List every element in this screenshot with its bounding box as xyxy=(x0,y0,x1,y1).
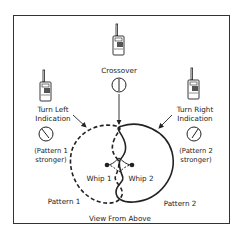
turn-right-arrow xyxy=(159,115,172,128)
walkie-talkie-icon xyxy=(113,24,124,55)
walkie-talkie-icon xyxy=(188,68,199,99)
right-note-2: stronger) xyxy=(180,156,212,164)
walkie-talkie-icon xyxy=(40,70,51,101)
right-note-1: (Pattern 2 xyxy=(179,147,213,155)
pattern-1-label: Pattern 1 xyxy=(48,197,81,206)
pattern-2-label: Pattern 2 xyxy=(164,199,197,208)
turn-right-label-2: Indication xyxy=(177,114,212,123)
direction-finding-diagram: Crossover Turn Left Indication (Pattern … xyxy=(0,0,237,235)
left-note-2: stronger) xyxy=(35,156,67,164)
view-caption: View From Above xyxy=(89,214,152,223)
whip-1-label: Whip 1 xyxy=(86,174,111,183)
turn-right-label-1: Turn Right xyxy=(176,105,214,114)
pattern-2-curve xyxy=(116,124,173,202)
crossover-label: Crossover xyxy=(101,66,137,75)
turn-left-label-2: Indication xyxy=(35,114,70,123)
meter-dial-icon xyxy=(112,78,126,92)
turn-left-arrow xyxy=(73,115,86,127)
pattern-1-curve xyxy=(70,125,122,203)
whip-2-label: Whip 2 xyxy=(128,174,153,183)
left-note-1: (Pattern 1 xyxy=(34,147,68,155)
turn-left-label-1: Turn Left xyxy=(36,105,68,114)
meter-dial-icon xyxy=(39,127,53,141)
meter-dial-icon xyxy=(187,127,201,141)
